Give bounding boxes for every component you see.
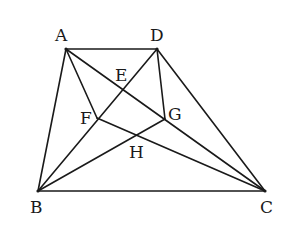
label-H: H	[129, 144, 144, 161]
vertex-C-dot	[263, 189, 266, 192]
vertex-A-dot	[64, 47, 67, 50]
vertex-B-dot	[36, 189, 39, 192]
segment-BG	[38, 119, 165, 191]
label-E: E	[115, 67, 127, 84]
diagram-lines	[0, 0, 293, 232]
vertex-D-dot	[155, 47, 158, 50]
segment-DB	[38, 49, 157, 191]
label-F: F	[80, 110, 92, 127]
segment-AB	[38, 49, 66, 191]
label-G: G	[168, 106, 182, 123]
segment-DG	[157, 49, 165, 119]
label-A: A	[55, 27, 67, 44]
segment-AC	[66, 49, 265, 191]
geometry-diagram: A D B C E F G H	[0, 0, 293, 232]
label-D: D	[150, 27, 164, 44]
segment-FC	[97, 118, 265, 191]
label-B: B	[30, 199, 43, 216]
label-C: C	[260, 199, 273, 216]
